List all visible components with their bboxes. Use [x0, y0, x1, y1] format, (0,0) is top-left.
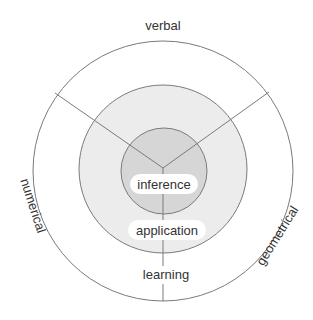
concentric-ability-diagram: inference application learning verbal nu…: [0, 0, 313, 320]
inner-ring-inference: [121, 128, 207, 214]
inference-label: inference: [137, 177, 190, 192]
verbal-label: verbal: [145, 18, 181, 33]
learning-label: learning: [143, 267, 189, 282]
application-label: application: [136, 223, 198, 238]
